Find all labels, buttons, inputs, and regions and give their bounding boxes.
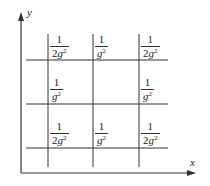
denominator: 2g2 [141,135,160,146]
numerator: 1 [97,121,107,132]
denominator: 2g2 [50,135,69,146]
numerator: 1 [55,34,65,45]
denominator: g2 [50,91,63,102]
numerator: 1 [52,77,62,88]
denominator: 2g2 [50,48,69,59]
denominator: g2 [95,48,108,59]
numerator: 1 [97,34,107,45]
cell-r0-c0: 1 2g2 [50,34,69,59]
cell-r2-c1: 1 g2 [95,121,108,146]
denominator: g2 [95,135,108,146]
numerator: 1 [146,34,156,45]
denominator: 2g2 [141,48,160,59]
numerator: 1 [146,121,156,132]
y-axis-arrow-icon [18,12,24,21]
cell-r1-c2: 1 g2 [141,77,154,102]
diagram-canvas [0,0,210,186]
cell-r1-c0: 1 g2 [50,77,63,102]
numerator: 1 [143,77,153,88]
y-axis-label: y [27,6,32,18]
cell-r0-c1: 1 g2 [95,34,108,59]
cell-r0-c2: 1 2g2 [141,34,160,59]
x-axis-arrow-icon [187,170,196,176]
denominator: g2 [141,91,154,102]
cell-r2-c2: 1 2g2 [141,121,160,146]
cell-r2-c0: 1 2g2 [50,121,69,146]
numerator: 1 [55,121,65,132]
x-axis-label: x [190,156,195,168]
